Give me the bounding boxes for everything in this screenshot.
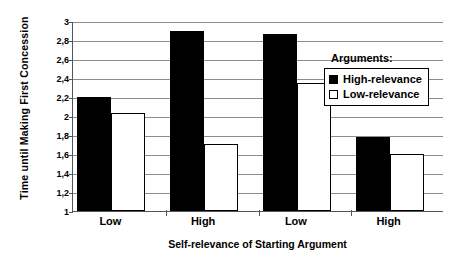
x-axis-tick-label: Low xyxy=(285,215,307,227)
x-axis-tick-mark xyxy=(351,210,352,216)
bar-high-relevance-3 xyxy=(263,34,297,211)
y-axis-tick-label: 2,4 xyxy=(56,74,69,84)
x-axis-tick-mark xyxy=(259,210,260,216)
y-axis-tick-label: 1,6 xyxy=(56,150,69,160)
y-axis-tick-mark xyxy=(69,79,73,80)
y-axis-tick-label: 1,8 xyxy=(56,131,69,141)
bar-low-relevance-1 xyxy=(111,113,145,211)
y-axis-tick-label: 2,2 xyxy=(56,93,69,103)
x-axis-title: Self-relevance of Starting Argument xyxy=(72,238,443,250)
legend-swatch-open-square-icon xyxy=(329,90,338,99)
y-axis-tick-mark xyxy=(69,155,73,156)
y-axis-tick-label: 2,8 xyxy=(56,36,69,46)
y-axis-tick-mark xyxy=(69,212,73,213)
y-axis-title: Time until Making First Concession xyxy=(18,0,30,218)
y-axis-tick-label: 1 xyxy=(64,207,69,217)
bar-high-relevance-2 xyxy=(170,31,204,212)
bar-chart: Time until Making First Concession 11,21… xyxy=(0,0,461,267)
legend-label: High-relevance xyxy=(343,72,422,87)
x-axis-tick-label: High xyxy=(191,215,215,227)
legend-item-high-relevance: High-relevance xyxy=(329,72,422,87)
y-axis-tick-mark xyxy=(69,193,73,194)
y-axis-tick-mark xyxy=(69,136,73,137)
x-axis-tick-label: Low xyxy=(99,215,121,227)
legend-item-low-relevance: Low-relevance xyxy=(329,87,422,102)
y-axis-tick-label: 2,6 xyxy=(56,55,69,65)
bar-low-relevance-4 xyxy=(390,154,424,211)
y-axis-tick-label: 3 xyxy=(64,17,69,27)
bar-high-relevance-4 xyxy=(356,137,390,211)
y-axis-tick-mark xyxy=(69,41,73,42)
y-axis-tick-mark xyxy=(69,174,73,175)
legend-label: Low-relevance xyxy=(343,87,419,102)
y-axis-tick-label: 2 xyxy=(64,112,69,122)
y-axis-tick-mark xyxy=(69,22,73,23)
bar-low-relevance-2 xyxy=(204,144,238,211)
gridline xyxy=(73,22,443,23)
y-axis-tick-mark xyxy=(69,117,73,118)
gridline xyxy=(73,41,443,42)
y-axis-tick-mark xyxy=(69,98,73,99)
legend: High-relevance Low-relevance xyxy=(324,68,429,106)
y-axis-tick-label: 1,4 xyxy=(56,169,69,179)
legend-swatch-filled-square-icon xyxy=(329,75,338,84)
plot-area: 11,21,41,61,822,22,42,62,83 xyxy=(72,22,443,212)
bar-high-relevance-1 xyxy=(77,97,111,211)
x-axis-tick-label: High xyxy=(376,215,400,227)
legend-title: Arguments: xyxy=(331,52,393,64)
y-axis-tick-label: 1,2 xyxy=(56,188,69,198)
x-axis-tick-mark xyxy=(166,210,167,216)
y-axis-tick-mark xyxy=(69,60,73,61)
